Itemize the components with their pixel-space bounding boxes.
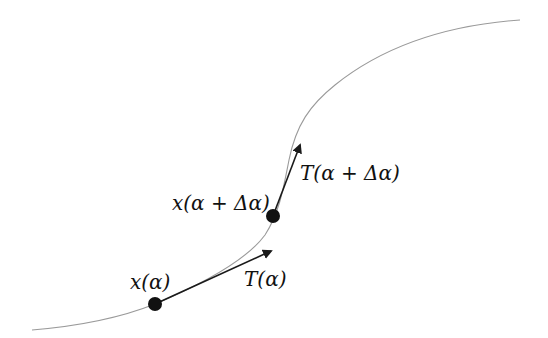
label-point-b: x(α + Δα) (172, 193, 270, 213)
tangent-arrow-b (273, 145, 300, 216)
label-tangent-a: T(α) (244, 269, 286, 289)
point-a-dot (148, 297, 162, 311)
label-tangent-b: T(α + Δα) (300, 163, 400, 183)
label-point-a: x(α) (130, 272, 170, 292)
